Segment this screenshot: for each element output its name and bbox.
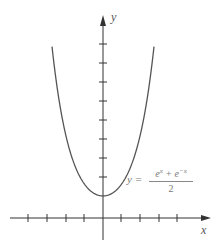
cosh-graph: y x y = ex + e−x 2 (0, 0, 215, 242)
equation-numerator: ex + e−x (149, 165, 193, 180)
graph-canvas (0, 0, 215, 242)
equation-fraction: ex + e−x 2 (149, 165, 193, 195)
equation-label: y = ex + e−x 2 (127, 165, 197, 201)
y-axis-label: y (111, 10, 116, 25)
x-axis-arrow-icon (201, 215, 211, 221)
y-axis-arrow-icon (100, 15, 106, 26)
x-axis-label: x (201, 223, 206, 238)
fraction-bar (149, 181, 193, 182)
equation-lhs: y = (127, 173, 142, 185)
equation-denominator: 2 (149, 183, 193, 195)
